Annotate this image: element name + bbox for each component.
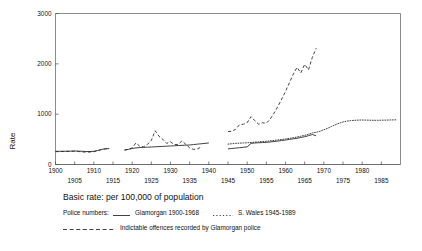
chart-figure: 0100020003000 19001910192019301940195019…: [0, 0, 422, 251]
x-tick-label: 1950: [240, 167, 255, 174]
series-path: [228, 120, 397, 144]
series-path: [125, 143, 209, 150]
x-tick-label: 1930: [163, 167, 178, 174]
series-0: [56, 135, 317, 152]
x-tick-label: 1955: [259, 177, 274, 184]
chart-canvas: 0100020003000 19001910192019301940195019…: [0, 0, 422, 251]
x-tick-label: 1925: [144, 177, 159, 184]
series-path: [125, 131, 202, 150]
x-tick-label: 1965: [298, 177, 313, 184]
y-tick-label: 2000: [37, 60, 52, 67]
x-tick-label: 1980: [355, 167, 370, 174]
series-path: [228, 48, 316, 131]
x-tick-label: 1970: [317, 167, 332, 174]
plot-frame: [56, 14, 401, 165]
line-chart: 0100020003000 19001910192019301940195019…: [0, 0, 422, 251]
y-axis-title: Rate: [8, 132, 17, 149]
x-tick-label: 1940: [202, 167, 217, 174]
x-tick-label: 1935: [183, 177, 198, 184]
y-tick-label: 1000: [37, 110, 52, 117]
x-tick-label: 1960: [278, 167, 293, 174]
series-2: [56, 48, 317, 152]
x-tick-label: 1905: [68, 177, 83, 184]
x-tick-label: 1915: [106, 177, 121, 184]
x-tick-label: 1975: [336, 177, 351, 184]
x-tick-label: 1985: [374, 177, 389, 184]
data-series-layer: [56, 48, 397, 152]
x-tick-label: 1910: [87, 167, 102, 174]
x-tick-label: 1920: [125, 167, 140, 174]
x-tick-label: 1945: [221, 177, 236, 184]
series-1: [228, 120, 397, 144]
y-tick-label: 3000: [37, 10, 52, 17]
x-tick-label: 1900: [48, 167, 63, 174]
series-path: [228, 135, 316, 149]
